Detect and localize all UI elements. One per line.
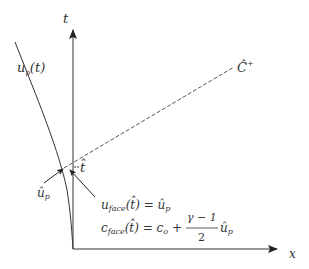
diagram-canvas: t x up(t) Ĉ+ t̂ ûp uface(t̂) = ûp cface(…: [0, 0, 309, 269]
piston-velocity-curve-label: up(t): [17, 60, 45, 77]
characteristic-c-plus-line: [64, 67, 234, 168]
characteristic-label: Ĉ+: [237, 59, 254, 75]
intersection-time-label: t̂: [80, 158, 86, 175]
up-hat-pointer-arrow: [44, 169, 63, 183]
x-axis-label: x: [289, 247, 296, 261]
cface-equation: cface(t̂) = co +: [101, 218, 182, 236]
fraction-numerator: γ − 1: [187, 211, 217, 224]
t-axis-label: t: [63, 11, 69, 26]
fraction-denominator: 2: [198, 231, 205, 244]
piston-velocity-hat-label: ûp: [37, 186, 50, 201]
cface-equation-tail: ûp: [220, 221, 233, 236]
uface-equation: uface(t̂) = ûp: [101, 195, 170, 213]
